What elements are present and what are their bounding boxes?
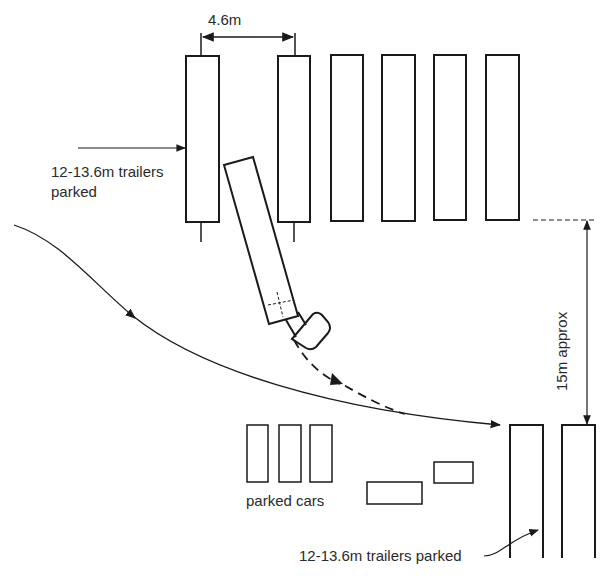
trailer-bottom-2 [562,425,595,558]
parked-car-3 [310,425,332,482]
top-row-trailers [186,55,519,222]
reversing-trailer [224,157,298,324]
trailer-top-3 [331,55,363,221]
parked-car-5 [434,462,473,483]
tractor-cab [292,313,330,350]
top-trailers-label-line1: 12-13.6m trailers [51,163,164,181]
approach-path [14,225,135,318]
bottom-trailers-label: 12-13.6m trailers parked [299,547,462,565]
top-trailers-label-line2: parked [51,183,97,201]
parked-car-1 [247,425,268,482]
reverse-path-arrow-icon [330,373,343,385]
kingpin-crosshair [268,292,294,317]
trailer-top-1 [186,56,219,222]
parked-car-2 [279,425,301,482]
trailer-top-5 [434,55,466,220]
aisle-width-label: 15m approx [553,312,571,391]
approach-path-continued [133,316,500,425]
trailer-centrelines [201,33,295,242]
bottom-row-trailers [510,425,595,558]
trailer-bottom-1 [510,425,543,558]
reverse-path-continued [332,378,405,414]
trailer-top-6 [486,55,519,220]
trailer-top-4 [382,55,415,221]
trailer-top-2 [278,56,310,222]
parked-car-4 [367,482,422,504]
spacing-label: 4.6m [208,11,241,29]
parked-cars-label: parked cars [246,492,324,510]
